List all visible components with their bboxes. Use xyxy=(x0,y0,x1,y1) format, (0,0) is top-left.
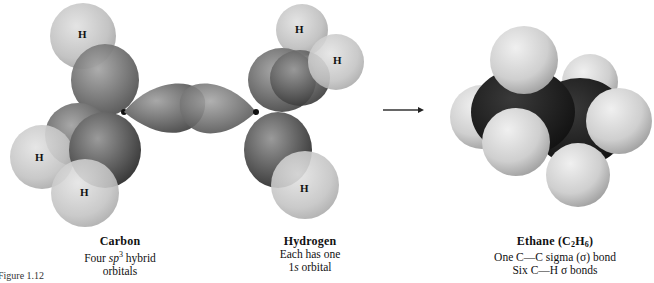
h-label: H xyxy=(80,186,89,198)
caption-ethane: Ethane (C2H6) One C—C sigma (σ) bond Six… xyxy=(480,235,630,277)
right-carbon-group: H H H xyxy=(244,4,364,219)
reaction-arrow xyxy=(383,107,424,113)
caption-line: orbitals xyxy=(60,265,180,278)
caption-line: Each has one xyxy=(250,248,370,261)
ethane-hydrogen-front xyxy=(482,108,550,176)
ethane-hydrogen-bottom xyxy=(546,143,610,207)
carbon-carbon-overlap xyxy=(124,84,256,134)
caption-carbon: Carbon Four sp3 hybrid orbitals xyxy=(60,235,180,278)
caption-line: Six C—H σ bonds xyxy=(480,264,630,277)
caption-text: H xyxy=(575,234,585,248)
left-carbon-group: H H H xyxy=(10,3,141,227)
caption-title: Ethane (C2H6) xyxy=(480,235,630,251)
caption-title: Carbon xyxy=(60,235,180,248)
ethane-hydrogen-right xyxy=(586,88,652,154)
caption-text: orbital xyxy=(299,261,332,273)
caption-text: hybrid xyxy=(123,252,156,264)
caption-text: Four xyxy=(84,252,109,264)
caption-italic: sp xyxy=(109,252,119,264)
caption-title: Hydrogen xyxy=(250,235,370,248)
figure-label: Figure 1.12 xyxy=(0,270,44,281)
caption-hydrogen: Hydrogen Each has one 1s orbital xyxy=(250,235,370,274)
h-label: H xyxy=(295,23,304,35)
h-label: H xyxy=(35,151,44,163)
ethane-hydrogen-top xyxy=(490,26,558,94)
sp3-lobe-cc-right xyxy=(180,84,256,134)
caption-text: Ethane (C xyxy=(517,234,571,248)
caption-text: ) xyxy=(589,234,593,248)
caption-line: One C—C sigma (σ) bond xyxy=(480,251,630,264)
h-label: H xyxy=(300,182,309,194)
ethane-model xyxy=(450,26,652,207)
caption-line: 1s orbital xyxy=(250,261,370,274)
h-label: H xyxy=(333,54,342,66)
carbon-nucleus-right xyxy=(253,109,259,115)
h-label: H xyxy=(78,28,87,40)
caption-line: Four sp3 hybrid xyxy=(60,248,180,265)
